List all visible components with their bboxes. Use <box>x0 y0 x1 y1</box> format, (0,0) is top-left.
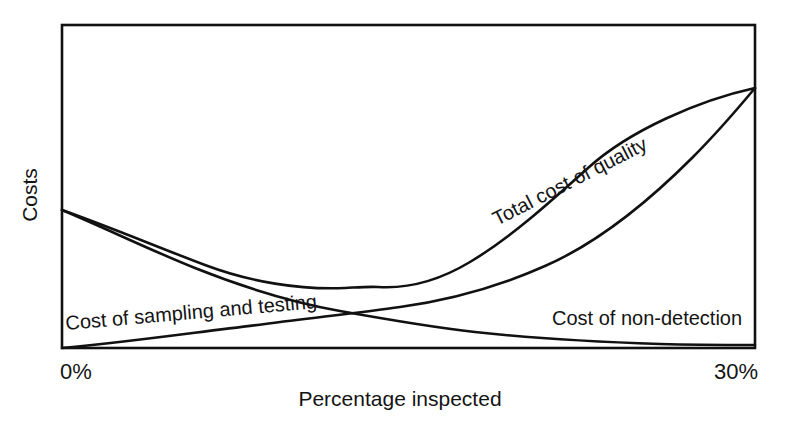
plot-frame <box>62 25 755 348</box>
series-label-cost-of-sampling-and-testing: Cost of sampling and testing <box>64 290 317 334</box>
x-tick-label-min: 0% <box>60 359 92 384</box>
x-axis-label: Percentage inspected <box>298 387 501 410</box>
curve-total-cost-of-quality <box>62 88 755 288</box>
chart-figure: Costs Percentage inspected 0% 30% Total … <box>0 0 802 432</box>
y-axis-label: Costs <box>18 168 41 222</box>
x-tick-label-max: 30% <box>714 359 758 384</box>
cost-of-quality-chart: Costs Percentage inspected 0% 30% Total … <box>0 0 802 432</box>
series-label-cost-of-non-detection: Cost of non-detection <box>552 307 742 329</box>
